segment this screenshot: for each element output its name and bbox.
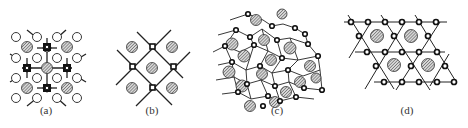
panel-d-label: (d)	[392, 104, 422, 116]
panel-a-label: (a)	[31, 104, 61, 116]
panel-c-label: (c)	[262, 104, 292, 116]
panel-b-diagram	[116, 30, 190, 106]
panel-a-diagram	[10, 30, 86, 106]
panel-c-diagram	[213, 9, 324, 112]
panel-b-label: (b)	[137, 104, 167, 116]
panel-d-diagram	[344, 15, 457, 90]
